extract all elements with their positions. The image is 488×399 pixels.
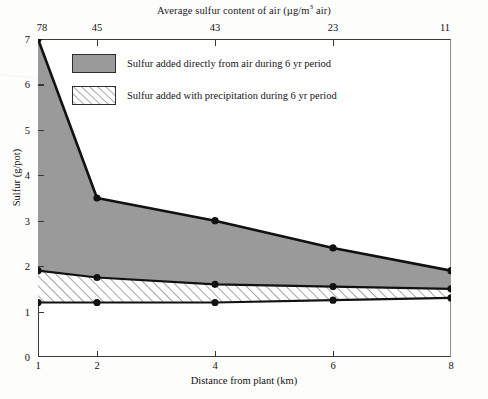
legend-label-air: Sulfur added directly from air during 6 … [127, 58, 331, 69]
data-point-marker [38, 39, 42, 43]
y-axis-tick-label: 0 [14, 352, 30, 363]
y-axis-tick-mark [38, 312, 44, 313]
legend-swatch-solid-gray-icon [72, 54, 116, 73]
chart-page: Average sulfur content of air (µg/m3 air… [0, 0, 488, 399]
hatch-pattern-icon [73, 87, 115, 104]
top-axis-title-text: Average sulfur content of air (µg/m [157, 5, 310, 16]
legend-item-precipitation: Sulfur added with precipitation during 6… [72, 86, 337, 105]
y-axis-tick-mark [38, 266, 44, 267]
top-axis-tick-label: 78 [37, 22, 48, 33]
x-axis-tick-label: 8 [448, 360, 453, 371]
data-point-marker [329, 283, 336, 290]
top-axis-title: Average sulfur content of air (µg/m3 air… [0, 3, 488, 16]
y-axis-tick-mark [38, 221, 44, 222]
x-axis-tick-mark [215, 351, 216, 357]
y-axis-tick-label: 6 [14, 79, 30, 90]
x-axis-tick-label: 6 [330, 360, 335, 371]
top-axis-tick-label: 45 [92, 22, 103, 33]
top-axis-tick-mark [215, 40, 216, 46]
legend-item-air: Sulfur added directly from air during 6 … [72, 54, 337, 73]
x-axis-tick-label: 1 [35, 360, 40, 371]
x-axis-title: Distance from plant (km) [0, 375, 488, 386]
top-axis-tick-mark [97, 40, 98, 46]
top-axis-tick-label: 11 [440, 22, 450, 33]
data-point-marker [329, 297, 336, 304]
x-axis-tick-label: 4 [212, 360, 217, 371]
top-axis-tick-label: 43 [210, 22, 221, 33]
legend-swatch-hatch-icon [72, 86, 116, 105]
data-point-marker [211, 217, 218, 224]
data-point-marker [93, 299, 100, 306]
y-axis-tick-label: 1 [14, 306, 30, 317]
data-point-marker [211, 281, 218, 288]
top-axis-tick-mark [333, 40, 334, 46]
y-axis-tick-label: 5 [14, 124, 30, 135]
legend-label-precipitation: Sulfur added with precipitation during 6… [127, 90, 337, 101]
data-point-marker [329, 244, 336, 251]
y-axis-tick-mark [38, 84, 44, 85]
y-axis-tick-mark [38, 130, 44, 131]
y-axis-tick-mark [38, 175, 44, 176]
y-axis-tick-label: 3 [14, 215, 30, 226]
x-axis-tick-mark [333, 351, 334, 357]
chart-legend: Sulfur added directly from air during 6 … [72, 54, 337, 118]
data-point-marker [211, 299, 218, 306]
data-point-marker [93, 274, 100, 281]
data-point-marker [93, 194, 100, 201]
x-axis-tick-label: 2 [94, 360, 99, 371]
x-axis-tick-mark [97, 351, 98, 357]
y-axis-tick-label: 2 [14, 261, 30, 272]
y-axis-tick-label: 7 [14, 34, 30, 45]
top-axis-tick-label: 23 [328, 22, 339, 33]
y-axis-tick-label: 4 [14, 170, 30, 181]
top-axis-title-tail: air) [313, 5, 331, 16]
